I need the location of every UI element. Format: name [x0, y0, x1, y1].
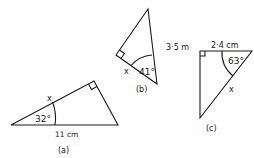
triangles-diagram: 32° x 11 cm (a) 41° x 3·5 m (b) 2·4 cm 6… — [0, 0, 254, 158]
side-label-a: 11 cm — [55, 130, 78, 139]
triangle-c-outline — [200, 51, 252, 118]
caption-b: (b) — [136, 85, 147, 94]
angle-label-c: 63° — [228, 56, 244, 66]
triangle-c — [200, 51, 252, 118]
unknown-label-c: x — [229, 85, 234, 94]
unknown-label-b: x — [124, 67, 129, 76]
angle-arc-b — [131, 55, 152, 66]
triangle-a-outline — [11, 81, 118, 125]
side-label-b: 3·5 m — [166, 43, 189, 52]
angle-arc-a — [53, 102, 56, 125]
angle-label-a: 32° — [35, 114, 51, 124]
caption-c: (c) — [206, 124, 217, 133]
angle-label-b: 41° — [139, 67, 155, 77]
right-angle-marker-c — [200, 51, 205, 56]
triangle-a — [11, 81, 118, 125]
caption-a: (a) — [58, 146, 69, 155]
unknown-label-a: x — [47, 94, 52, 103]
right-angle-marker-b — [120, 50, 125, 59]
side-label-c: 2·4 cm — [211, 41, 239, 50]
